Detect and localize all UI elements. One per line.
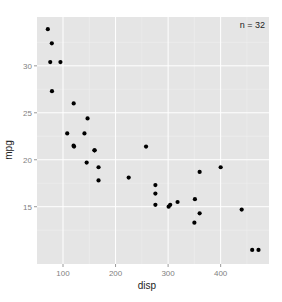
y-axis: 15202530	[23, 62, 37, 212]
data-point	[240, 207, 244, 211]
data-point	[175, 200, 179, 204]
y-axis-title: mpg	[3, 140, 14, 159]
data-point	[153, 183, 157, 187]
x-tick-label: 100	[56, 269, 70, 278]
y-tick-label: 20	[23, 156, 32, 165]
data-point	[198, 170, 202, 174]
y-tick-label: 15	[23, 203, 32, 212]
x-tick-label: 200	[109, 269, 123, 278]
data-point	[127, 175, 131, 179]
data-point	[92, 148, 96, 152]
data-point	[96, 178, 100, 182]
data-point	[250, 248, 254, 252]
data-point	[144, 145, 148, 149]
data-point	[85, 160, 89, 164]
y-tick-label: 25	[23, 109, 32, 118]
data-point	[167, 205, 171, 209]
annotation-count: n = 32	[240, 20, 265, 30]
data-point	[256, 248, 260, 252]
plot-panel	[37, 17, 269, 264]
data-point	[85, 116, 89, 120]
data-point	[193, 197, 197, 201]
data-point	[50, 89, 54, 93]
data-point	[219, 165, 223, 169]
data-point	[198, 211, 202, 215]
data-point	[72, 101, 76, 105]
x-tick-label: 300	[161, 269, 175, 278]
data-point	[153, 191, 157, 195]
scatter-chart: 100200300400 15202530 n = 32 disp mpg	[0, 0, 282, 302]
y-tick-label: 30	[23, 62, 32, 71]
data-point	[46, 27, 50, 31]
data-point	[65, 131, 69, 135]
data-point	[82, 131, 86, 135]
x-tick-label: 400	[214, 269, 228, 278]
data-point	[153, 203, 157, 207]
x-axis-title: disp	[138, 280, 157, 291]
data-point	[58, 60, 62, 64]
x-axis: 100200300400	[56, 264, 228, 278]
data-point	[96, 165, 100, 169]
data-point	[72, 145, 76, 149]
data-point	[48, 60, 52, 64]
data-point	[50, 41, 54, 45]
data-point	[192, 221, 196, 225]
